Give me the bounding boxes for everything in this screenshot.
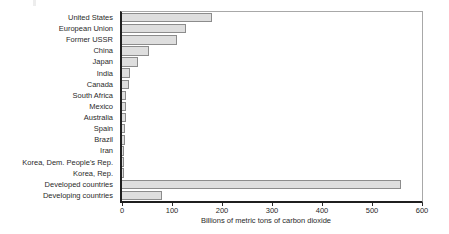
x-tick	[422, 203, 423, 206]
y-axis-label: Korea, Rep.	[0, 168, 113, 179]
x-tick	[222, 203, 223, 206]
bar	[122, 24, 186, 34]
bar	[122, 146, 124, 156]
bar	[122, 80, 129, 90]
y-axis-label: Mexico	[0, 101, 113, 112]
y-axis-label: Japan	[0, 56, 113, 67]
x-tick	[122, 203, 123, 206]
x-tick	[372, 203, 373, 206]
y-axis-label: Developed countries	[0, 179, 113, 190]
x-tick	[172, 203, 173, 206]
x-axis-title: Billions of metric tons of carbon dioxid…	[116, 216, 416, 225]
scan-artifact	[33, 0, 36, 6]
y-axis-label: China	[0, 45, 113, 56]
bar	[122, 68, 130, 78]
y-axis-labels: United StatesEuropean UnionFormer USSRCh…	[0, 12, 117, 201]
bar	[122, 124, 125, 134]
bar	[122, 46, 149, 56]
y-axis-label: Iran	[0, 145, 113, 156]
bar	[122, 168, 124, 178]
x-tick-label: 500	[354, 206, 390, 215]
x-tick-label: 200	[204, 206, 240, 215]
y-axis-label: Brazil	[0, 134, 113, 145]
y-axis-label: United States	[0, 12, 113, 23]
x-tick-label: 600	[404, 206, 440, 215]
y-axis-label: Developing countries	[0, 190, 113, 201]
x-tick-label: 0	[104, 206, 140, 215]
bar	[122, 135, 125, 145]
co2-emissions-bar-chart: United StatesEuropean UnionFormer USSRCh…	[0, 0, 449, 234]
y-axis-label: Spain	[0, 123, 113, 134]
bar	[122, 157, 124, 167]
y-axis-label: South Africa	[0, 90, 113, 101]
y-axis-label: Australia	[0, 112, 113, 123]
bar	[122, 91, 126, 101]
bar	[122, 57, 138, 67]
x-tick-label: 400	[304, 206, 340, 215]
x-tick-label: 100	[154, 206, 190, 215]
bar	[122, 113, 126, 123]
bar	[122, 180, 401, 190]
y-axis-label: Former USSR	[0, 34, 113, 45]
x-tick	[272, 203, 273, 206]
y-axis-label: India	[0, 68, 113, 79]
bar	[122, 191, 162, 201]
plot-area	[120, 11, 423, 203]
bar	[122, 13, 212, 23]
y-axis-label: Canada	[0, 79, 113, 90]
y-axis-label: European Union	[0, 23, 113, 34]
x-tick-label: 300	[254, 206, 290, 215]
bar	[122, 102, 126, 112]
x-tick	[322, 203, 323, 206]
y-axis-label: Korea, Dem. People's Rep.	[0, 157, 113, 168]
bar	[122, 35, 177, 45]
